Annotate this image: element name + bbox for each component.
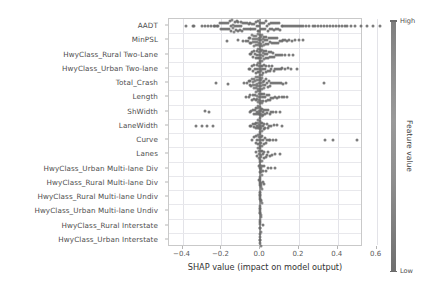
data-point (294, 39, 297, 42)
x-axis-tick-0 (182, 246, 183, 249)
y-axis-label-8: Curve (136, 135, 158, 144)
gridline-vertical-3 (299, 19, 300, 245)
data-point (274, 139, 277, 142)
data-point (356, 138, 359, 141)
y-axis-label-2: HwyClass_Rural Two-Lane (63, 49, 158, 58)
gridline-horizontal-10 (169, 162, 361, 163)
data-point (288, 53, 291, 56)
y-axis-label-0: AADT (138, 21, 158, 30)
data-point (280, 124, 283, 127)
plot-area (168, 18, 362, 246)
x-axis-tick-label-2: 0.0 (254, 250, 265, 258)
gridline-horizontal-12 (169, 190, 361, 191)
data-point (371, 25, 374, 28)
data-point (274, 110, 277, 113)
y-axis-label-15: HwyClass_Urban Interstate (58, 234, 158, 243)
x-axis-tick-label-3: 0.2 (292, 250, 303, 258)
data-point (195, 124, 198, 127)
x-axis-tick-4 (337, 246, 338, 249)
data-point (203, 110, 206, 113)
gridline-horizontal-6 (169, 105, 361, 106)
data-point (331, 139, 334, 142)
gridline-horizontal-15 (169, 233, 361, 234)
data-point (185, 24, 188, 27)
data-point (278, 153, 281, 156)
data-point (259, 218, 262, 221)
data-point (263, 165, 266, 168)
data-point (264, 141, 267, 144)
data-point (284, 53, 287, 56)
data-point (262, 86, 265, 89)
data-point (285, 82, 288, 85)
colorbar-gradient (391, 20, 396, 272)
data-point (323, 82, 326, 85)
data-point (297, 39, 300, 42)
x-axis-tick-3 (298, 246, 299, 249)
y-axis-label-14: HwyClass_Rural Interstate (62, 220, 158, 229)
y-axis-label-13: HwyClass_Urban Multi-lane Undiv (34, 206, 158, 215)
y-axis-label-6: ShWidth (127, 106, 158, 115)
data-point (261, 224, 264, 227)
data-point (292, 53, 295, 56)
y-axis-label-7: LaneWidth (119, 120, 158, 129)
gridline-horizontal-8 (169, 133, 361, 134)
y-axis-label-12: HwyClass_Rural Multi-lane Undiv (38, 192, 158, 201)
colorbar: High Low (391, 20, 397, 272)
colorbar-bottom-cap (390, 271, 397, 273)
gridline-horizontal-5 (169, 90, 361, 91)
data-point (278, 28, 281, 31)
y-axis-label-4: Total_Crash (116, 78, 158, 87)
gridline-vertical-1 (221, 19, 222, 245)
colorbar-high-label: High (400, 17, 415, 25)
data-point (324, 139, 327, 142)
data-point (262, 183, 265, 186)
data-point (267, 150, 270, 153)
x-axis-tick-label-4: 0.4 (331, 250, 342, 258)
data-point (360, 25, 363, 28)
x-axis-tick-1 (220, 246, 221, 249)
x-axis-tick-label-5: 0.6 (370, 250, 381, 258)
data-point (226, 39, 229, 42)
gridline-horizontal-9 (169, 147, 361, 148)
data-point (200, 124, 203, 127)
x-axis-tick-label-0: −0.4 (173, 250, 190, 258)
colorbar-top-cap (390, 20, 397, 22)
gridline-vertical-4 (338, 19, 339, 245)
data-point (290, 67, 293, 70)
gridline-horizontal-2 (169, 48, 361, 49)
shap-summary-figure: AADTMinPSLHwyClass_Rural Two-LaneHwyClas… (0, 0, 435, 298)
data-point (269, 167, 272, 170)
y-axis-label-10: HwyClass_Urban Multi-lane Div (43, 163, 158, 172)
gridline-horizontal-13 (169, 204, 361, 205)
gridline-vertical-5 (377, 19, 378, 245)
data-point (268, 70, 271, 73)
colorbar-title: Feature value (405, 120, 414, 172)
gridline-vertical-0 (183, 19, 184, 245)
y-axis-label-3: HwyClass_Urban Two-lane (62, 63, 158, 72)
data-point (301, 39, 304, 42)
gridline-horizontal-14 (169, 219, 361, 220)
y-axis-label-1: MinPSL (132, 35, 158, 44)
y-axis-label-11: HwyClass_Rural Multi-lane Div (47, 177, 158, 186)
gridline-horizontal-11 (169, 176, 361, 177)
data-point (365, 24, 368, 27)
data-point (286, 96, 289, 99)
data-point (227, 82, 230, 85)
data-point (214, 82, 217, 85)
data-point (379, 25, 382, 28)
x-axis-tick-2 (259, 246, 260, 249)
x-axis-tick-label-1: −0.2 (212, 250, 229, 258)
data-point (275, 124, 278, 127)
x-axis-title: SHAP value (impact on model output) (188, 262, 343, 272)
y-axis-label-9: Lanes (136, 149, 158, 158)
y-axis-label-5: Length (133, 92, 158, 101)
data-point (273, 153, 276, 156)
y-axis-feature-labels: AADTMinPSLHwyClass_Rural Two-LaneHwyClas… (0, 18, 163, 246)
data-point (346, 25, 349, 28)
data-point (211, 124, 214, 127)
data-point (207, 110, 210, 113)
colorbar-low-label: Low (400, 267, 413, 275)
gridline-horizontal-7 (169, 119, 361, 120)
data-point (350, 25, 353, 28)
data-point (236, 39, 239, 42)
